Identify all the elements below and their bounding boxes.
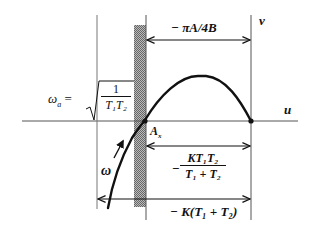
middle-dimension-denominator: T₁ + T₂ [180,166,226,180]
middle-dimension-fraction: KT₁T₂ T₁ + T₂ [180,152,226,180]
omega-a-fraction: 1 T₁T₂ [101,83,131,111]
point-A-letter: A [150,124,158,138]
omega-a-denominator: T₁T₂ [101,97,131,111]
omega-a-label: ωa = [48,92,72,109]
point-A-label: Ax [150,125,162,140]
v-axis-label: v [259,14,265,27]
point-A-subscript: x [158,132,162,140]
top-dimension-label: − πA/4B [171,21,217,34]
nyquist-diagram [0,0,311,233]
omega-a-symbol: ω [48,91,57,106]
point-end [248,118,253,123]
omega-a-numerator: 1 [101,83,131,97]
omega-a-subscript: a [57,100,61,109]
bottom-dimension-label: − K(T₁ + T₂) [170,205,237,218]
omega-label: ω [101,164,111,178]
u-axis-label: u [284,103,291,116]
omega-a-equals: = [64,91,71,106]
middle-dimension-sign: − [172,162,179,175]
middle-dimension-numerator: KT₁T₂ [180,152,226,166]
point-A [142,118,147,123]
omega-direction-arrow [114,141,123,158]
hatched-region [134,25,146,207]
